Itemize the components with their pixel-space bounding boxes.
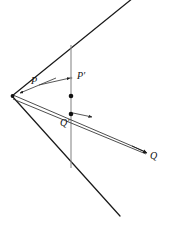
dot-mid-marker xyxy=(69,94,74,99)
q-ray-lower-edge xyxy=(13,99,146,154)
label-q: Q xyxy=(150,151,157,161)
label-q-prime: Q′ xyxy=(60,118,69,128)
dot-vertex xyxy=(11,94,15,98)
caption-clipped-strip: · · ·· ·· ·· · ··· ···· ·· ·· ·· xyxy=(0,216,173,225)
arrow-to-q-prime xyxy=(73,113,92,117)
label-p-prime: P′ xyxy=(77,71,85,81)
dot-p-prime xyxy=(70,77,73,80)
label-p: P xyxy=(31,76,37,86)
q-ray-upper-edge xyxy=(13,95,146,152)
caption-text: · · ·· ·· ·· · ··· ···· ·· ·· ·· xyxy=(2,216,97,219)
dot-q-prime xyxy=(69,112,74,117)
lower-angle-ray xyxy=(12,96,120,216)
figure-canvas xyxy=(0,0,173,225)
geometry-figure: P P′ Q′ Q · · ·· ·· ·· · ··· ···· ·· ·· … xyxy=(0,0,173,225)
